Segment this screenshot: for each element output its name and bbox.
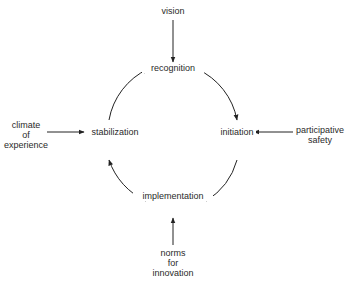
input-climate-line-1: climate xyxy=(2,120,50,130)
input-safety-line-2: safety xyxy=(292,135,347,145)
input-participative-safety: participative safety xyxy=(292,125,347,145)
input-safety-line-1: participative xyxy=(292,125,347,135)
input-climate-of-experience: climate of experience xyxy=(2,120,50,150)
input-norms-line-2: for xyxy=(148,258,198,268)
node-stabilization: stabilization xyxy=(86,127,144,137)
input-norms-line-3: innovation xyxy=(148,268,198,278)
node-initiation: initiation xyxy=(218,127,256,137)
input-climate-line-2: of xyxy=(2,130,50,140)
input-vision: vision xyxy=(153,6,193,16)
node-recognition: recognition xyxy=(142,63,204,73)
arc-recognition-to-initiation xyxy=(197,69,237,120)
node-implementation: implementation xyxy=(133,191,213,201)
input-norms-for-innovation: norms for innovation xyxy=(148,248,198,278)
input-vision-line: vision xyxy=(153,6,193,16)
input-norms-line-1: norms xyxy=(148,248,198,258)
arc-stabilization-to-recognition xyxy=(109,69,148,120)
input-climate-line-3: experience xyxy=(2,140,50,150)
